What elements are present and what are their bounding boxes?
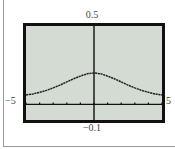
- plot-area: [26, 26, 162, 120]
- y-min-label: −0.1: [79, 123, 105, 133]
- panel-left-border: [3, 0, 4, 147]
- x-min-label: −5: [5, 96, 16, 106]
- y-max-label: 0.5: [82, 10, 102, 20]
- graph-window: [23, 23, 165, 123]
- panel-bottom-border: [3, 146, 175, 147]
- x-max-label: 5: [166, 96, 171, 106]
